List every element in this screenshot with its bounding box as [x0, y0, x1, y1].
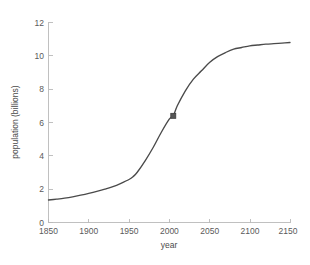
y-tick-label: 4	[39, 151, 44, 161]
plot-background	[48, 22, 290, 222]
x-tick-label: 2000	[160, 226, 179, 236]
y-tick-label: 2	[39, 184, 44, 194]
y-axis-title: population (billions)	[10, 85, 20, 158]
y-axis-tick-labels: 0 2 4 6 8 10 12	[35, 18, 45, 228]
y-tick-label: 6	[39, 118, 44, 128]
current-population-marker	[171, 113, 176, 118]
population-growth-chart: 0 2 4 6 8 10 12 1850 1900 1950 2000 2050…	[0, 0, 310, 265]
y-tick-label: 12	[35, 18, 45, 28]
x-tick-label: 2050	[200, 226, 219, 236]
x-tick-label: 1950	[120, 226, 139, 236]
y-tick-label: 10	[35, 51, 45, 61]
y-tick-label: 8	[39, 84, 44, 94]
x-axis-tick-labels: 1850 1900 1950 2000 2050 2100 2150	[39, 226, 298, 236]
population-growth-chart-figure: 0 2 4 6 8 10 12 1850 1900 1950 2000 2050…	[0, 0, 310, 265]
x-tick-label: 2150	[279, 226, 298, 236]
x-axis-title: year	[161, 240, 178, 250]
x-tick-label: 1900	[79, 226, 98, 236]
x-tick-label: 2100	[241, 226, 260, 236]
x-tick-label: 1850	[39, 226, 58, 236]
